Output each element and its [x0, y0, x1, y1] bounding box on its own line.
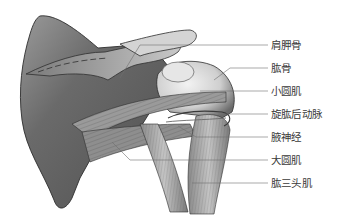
label-axillary-nerve: 腋神经 — [271, 131, 302, 143]
anatomy-figure: 肩胛骨 肱骨 小圆肌 旋肱后动脉 腋神经 大圆肌 肱三头肌 — [0, 0, 339, 223]
label-posterior-circumflex-humeral-artery: 旋肱后动脉 — [271, 108, 322, 120]
label-teres-major: 大圆肌 — [271, 154, 302, 166]
label-scapula: 肩胛骨 — [271, 39, 302, 51]
label-teres-minor: 小圆肌 — [271, 85, 302, 97]
label-humerus: 肱骨 — [271, 62, 291, 74]
label-triceps-brachii: 肱三头肌 — [271, 177, 312, 189]
